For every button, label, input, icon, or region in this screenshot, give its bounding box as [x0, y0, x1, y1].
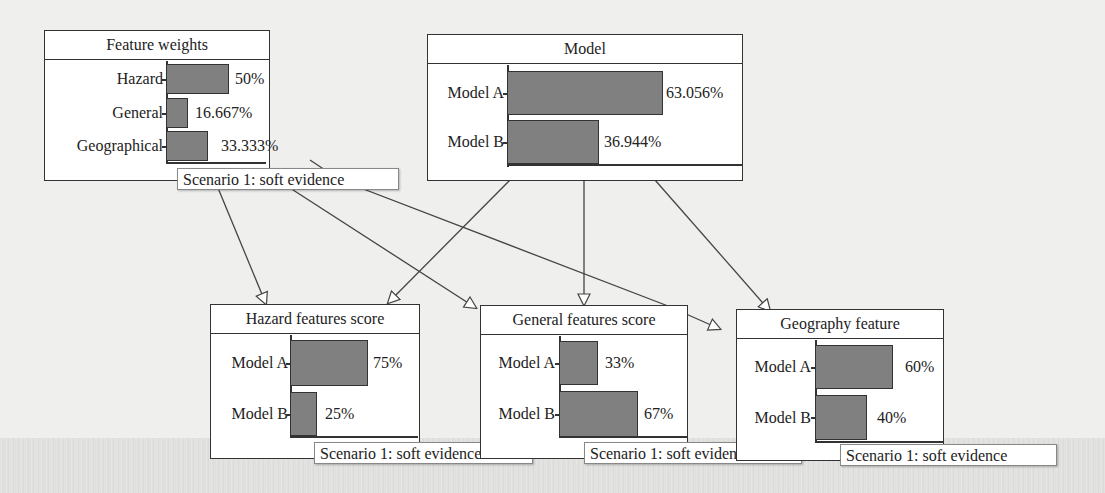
probability-bar: [166, 64, 229, 94]
state-label: Model A: [448, 71, 504, 115]
node-hazard-features-score[interactable]: Hazard features score Model A 75% Model …: [210, 304, 420, 459]
probability-bar: [507, 71, 663, 115]
state-row-model-a: Model A 63.056%: [428, 71, 742, 115]
state-value: 36.944%: [604, 120, 661, 164]
probability-bar: [166, 98, 188, 128]
state-label: Model B: [232, 392, 288, 436]
state-label: General: [112, 96, 163, 130]
probability-bar: [507, 120, 599, 164]
axis-baseline: [290, 436, 418, 438]
edge-model-hazard: [388, 180, 510, 303]
probability-bar: [290, 340, 368, 386]
edge-featureweights-general: [290, 188, 476, 308]
state-value: 67%: [644, 391, 673, 437]
edge-featureweights-hazard: [218, 188, 266, 304]
state-value: 50%: [235, 62, 264, 96]
state-value: 25%: [325, 392, 354, 436]
state-row-geographical: Geographical 33.333%: [45, 129, 269, 163]
state-value: 63.056%: [666, 71, 723, 115]
state-label: Model A: [232, 340, 288, 386]
state-row-model-a: Model A 33%: [481, 341, 687, 385]
state-value: 16.667%: [195, 96, 252, 130]
axis-baseline: [815, 441, 943, 443]
state-label: Model A: [755, 345, 811, 389]
node-geography-feature[interactable]: Geography feature Model A 60% Model B 40…: [736, 309, 944, 461]
state-label: Model A: [499, 341, 555, 385]
probability-bar: [166, 131, 208, 161]
state-label: Model B: [755, 395, 811, 440]
evidence-label-geography: Scenario 1: soft evidence: [840, 444, 1057, 466]
probability-bar: [815, 345, 893, 389]
axis-baseline: [507, 164, 742, 166]
state-row-model-a: Model A 75%: [211, 340, 419, 386]
state-row-model-b: Model B 36.944%: [428, 120, 742, 164]
node-model[interactable]: Model Model A 63.056% Model B 36.944%: [427, 34, 743, 181]
probability-bar: [815, 395, 867, 440]
state-label: Geographical: [77, 129, 163, 163]
state-row-model-b: Model B 67%: [481, 391, 687, 437]
state-value: 33.333%: [221, 129, 278, 163]
node-feature-weights[interactable]: Feature weights Hazard 50% General 16.66…: [44, 30, 270, 181]
state-row-model-a: Model A 60%: [737, 345, 943, 389]
node-title: Hazard features score: [211, 305, 419, 334]
state-value: 40%: [877, 395, 906, 440]
state-label: Model B: [448, 120, 504, 164]
probability-bar: [559, 391, 638, 437]
state-label: Hazard: [117, 62, 163, 96]
node-title: Feature weights: [45, 31, 269, 60]
edge-model-geography: [655, 180, 770, 311]
node-title: Model: [428, 35, 742, 64]
probability-bar: [559, 341, 598, 385]
state-row-hazard: Hazard 50%: [45, 62, 269, 96]
state-value: 60%: [905, 345, 934, 389]
evidence-label-feature-weights: Scenario 1: soft evidence: [177, 168, 399, 190]
state-row-model-b: Model B 40%: [737, 395, 943, 440]
state-row-model-b: Model B 25%: [211, 392, 419, 436]
state-row-general: General 16.667%: [45, 96, 269, 130]
state-value: 33%: [605, 341, 634, 385]
state-label: Model B: [499, 391, 555, 437]
state-value: 75%: [373, 340, 402, 386]
node-title: General features score: [481, 306, 687, 335]
node-title: Geography feature: [737, 310, 943, 339]
node-general-features-score[interactable]: General features score Model A 33% Model…: [480, 305, 688, 459]
probability-bar: [290, 392, 317, 436]
